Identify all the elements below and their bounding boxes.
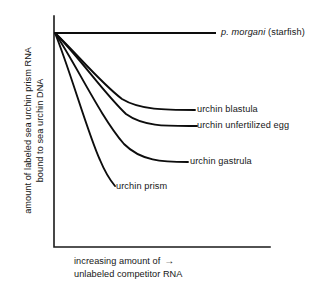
curve-label-urchin-gastrula: urchin gastrula xyxy=(190,156,252,168)
figure-container: p. morgani (starfish) urchin blastula ur… xyxy=(0,0,332,288)
y-axis-label-line-1: amount of labeled sea urchin prism RNA xyxy=(22,25,34,235)
plot-svg xyxy=(0,0,332,288)
curve-urchin-blastula xyxy=(55,33,195,110)
curve-label-p-morgani-common: (starfish) xyxy=(265,27,304,37)
y-axis-label: amount of labeled sea urchin prism RNA b… xyxy=(22,25,47,235)
x-axis-label-line-2: unlabeled competitor RNA xyxy=(74,268,182,281)
curve-label-urchin-blastula: urchin blastula xyxy=(197,104,258,116)
axis-lines xyxy=(54,16,270,247)
y-axis-label-line-2: bound to sea urchin DNA xyxy=(34,25,46,235)
arrow-right-icon: → xyxy=(160,255,174,268)
x-axis-label-line-1-text: increasing amount of xyxy=(74,256,160,266)
curve-urchin-unfertilized-egg xyxy=(55,33,197,126)
curve-label-urchin-prism: urchin prism xyxy=(116,181,167,193)
x-axis-label: increasing amount of→ unlabeled competit… xyxy=(74,255,182,280)
curve-label-p-morgani: p. morgani (starfish) xyxy=(221,27,305,39)
curve-urchin-prism xyxy=(55,33,115,186)
curve-label-urchin-unfertilized-egg: urchin unfertilized egg xyxy=(197,120,289,132)
x-axis-label-line-1: increasing amount of→ xyxy=(74,255,182,268)
curve-label-p-morgani-species: p. morgani xyxy=(221,27,265,37)
